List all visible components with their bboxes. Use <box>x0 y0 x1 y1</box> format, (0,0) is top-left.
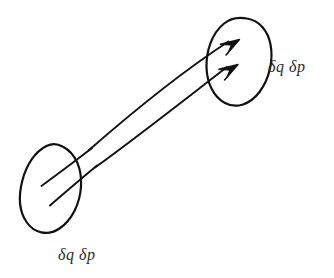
initial-region-tail-lower <box>50 166 97 206</box>
lower-flow-curve <box>95 67 227 168</box>
initial-region-label: δq δp <box>58 246 95 264</box>
initial-region-group <box>20 144 97 233</box>
final-region-label: δq δp <box>268 58 305 76</box>
initial-region-tail-upper <box>42 148 93 186</box>
final-region-group <box>206 18 271 106</box>
final-region-outline <box>206 18 271 106</box>
diagram-canvas: δq δp δq δp <box>0 0 334 278</box>
upper-arrowhead <box>219 40 240 56</box>
phase-space-diagram: δq δp δq δp <box>0 0 334 278</box>
initial-region-outline <box>20 144 81 233</box>
